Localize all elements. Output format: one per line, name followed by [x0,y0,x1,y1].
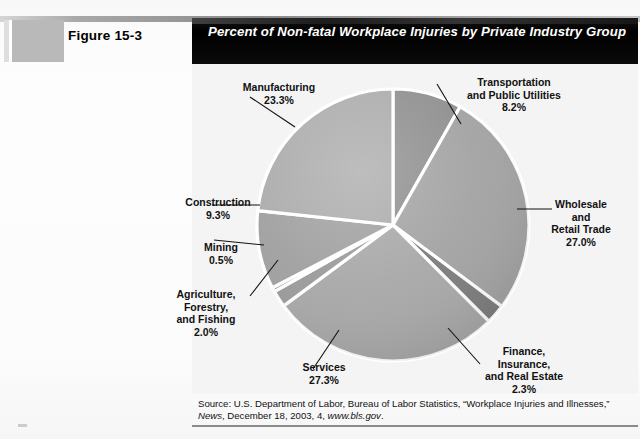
source-prefix: Source: U.S. Department of Labor, Bureau… [198,398,610,409]
label-agriculture-forestry-fishing: Agriculture, Forestry, and Fishing 2.0% [143,288,269,338]
pie-slice[interactable] [258,89,393,225]
page-edge-mark [18,424,27,427]
figure-label: Figure 15-3 [68,28,142,43]
source-url: www.bls.gov [328,410,381,421]
figure-title-bar: Percent of Non-fatal Workplace Injuries … [192,18,638,64]
label-mining: Mining 0.5% [172,241,270,266]
label-transportation: Transportation and Public Utilities 8.2% [445,76,583,114]
figure-title: Percent of Non-fatal Workplace Injuries … [208,23,628,40]
pie-slice-group [257,89,529,361]
source-middle: , December 18, 2003, 4, [222,410,328,421]
source-note: Source: U.S. Department of Labor, Bureau… [198,398,634,423]
label-finance-insurance-real-estate: Finance, Insurance, and Real Estate 2.3% [461,345,587,395]
source-publication: News [198,410,222,421]
source-suffix: . [381,410,384,421]
bottom-rule [192,425,638,427]
label-wholesale-retail-trade: Wholesale and Retail Trade 27.0% [529,198,633,248]
label-construction: Construction 9.3% [166,196,270,221]
label-services: Services 27.3% [281,361,367,386]
label-manufacturing: Manufacturing 23.3% [219,81,339,106]
figure-color-swatch [9,20,64,62]
figure-page: Figure 15-3 Percent of Non-fatal Workpla… [0,0,640,439]
